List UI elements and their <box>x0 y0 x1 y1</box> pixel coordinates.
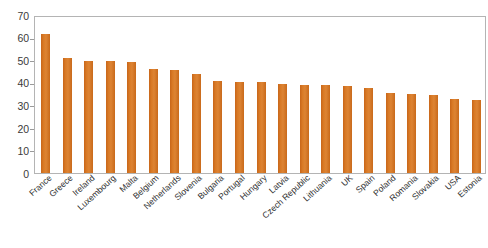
bar <box>257 82 266 173</box>
bar <box>170 70 179 173</box>
x-axis-labels: FranceGreeceIrelandLuxembourgMaltaBelgiu… <box>34 175 486 248</box>
bar <box>213 81 222 173</box>
x-axis-tick-label-text: UK <box>340 174 355 188</box>
y-axis-tick-label: 70 <box>18 11 34 22</box>
bar <box>84 61 93 173</box>
bar <box>106 61 115 173</box>
bar <box>450 99 459 173</box>
bar <box>127 62 136 173</box>
y-axis-tick-label: 0 <box>23 169 34 180</box>
bar <box>386 93 395 173</box>
bar <box>407 94 416 173</box>
bar <box>41 34 50 173</box>
bar <box>63 58 72 173</box>
bar <box>429 95 438 173</box>
bar <box>472 100 481 173</box>
bar <box>364 88 373 173</box>
plot-area <box>34 16 486 174</box>
bars-layer <box>35 17 485 173</box>
y-axis: 706050403020100 <box>0 16 34 174</box>
bar <box>149 69 158 173</box>
bar <box>278 84 287 173</box>
bar-chart: 706050403020100 FranceGreeceIrelandLuxem… <box>0 0 488 248</box>
bar <box>192 74 201 173</box>
bar <box>235 82 244 173</box>
bar <box>343 86 352 173</box>
bar <box>321 85 330 173</box>
bar <box>300 85 309 173</box>
